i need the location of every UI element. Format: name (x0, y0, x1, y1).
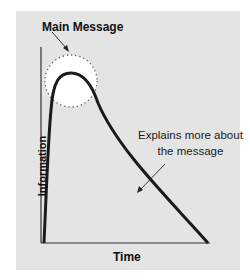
y-axis-label: Information (36, 126, 48, 206)
explanation-label: Explains more about the message (138, 127, 243, 159)
explanation-line-1: Explains more about (138, 127, 243, 143)
main-message-label: Main Message (42, 20, 123, 34)
x-axis-label: Time (113, 250, 141, 264)
explanation-arrowhead-icon (137, 186, 143, 193)
main-message-arrow (52, 32, 67, 49)
explanation-arrow (140, 164, 165, 190)
explanation-line-2: the message (138, 143, 243, 159)
